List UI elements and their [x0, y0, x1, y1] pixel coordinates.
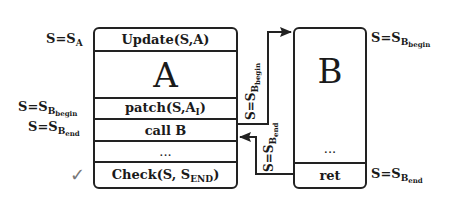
- state-label-b-end-left: S=SBend: [28, 119, 80, 138]
- state-label-b-end-right: S=SBend: [371, 166, 423, 185]
- state-label-a: S=SA: [46, 31, 83, 48]
- arrow-label-b-end: S=SBend: [262, 123, 280, 172]
- arrow-label-b-begin: S=SBbegin: [244, 63, 262, 120]
- checkmark-icon: ✓: [70, 164, 85, 185]
- state-label-b-begin-left: S=SBbegin: [18, 99, 77, 118]
- state-label-b-begin-right: S=SBbegin: [371, 30, 430, 49]
